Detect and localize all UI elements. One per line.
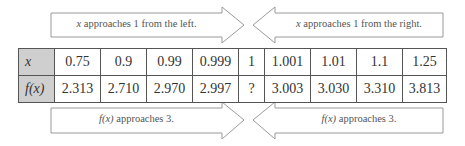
table-cell: 3.813: [403, 76, 447, 103]
table-cell: ?: [239, 76, 265, 103]
table-cell: 1.1: [357, 49, 403, 76]
arrow-label-fx-right: f(x) approaches 3.: [275, 113, 443, 124]
row-header-fx: f(x): [19, 76, 55, 103]
table-cell: 0.999: [193, 49, 239, 76]
table-cell: 2.313: [55, 76, 101, 103]
table-cell: 3.030: [311, 76, 357, 103]
table-row-x: x 0.75 0.9 0.99 0.999 1 1.001 1.01 1.1 1…: [19, 49, 447, 76]
arrow-label-var: f(x): [322, 113, 337, 124]
table-cell: 1.01: [311, 49, 357, 76]
table-cell: 0.99: [147, 49, 193, 76]
table-cell: 2.710: [101, 76, 147, 103]
arrow-label-text: approaches 1 from the left.: [81, 18, 196, 29]
arrow-label-text: approaches 1 from the right.: [301, 18, 422, 29]
row-header-x: x: [19, 49, 55, 76]
arrow-label-x-from-right: x approaches 1 from the right.: [275, 18, 443, 29]
arrow-label-text: approaches 3.: [114, 113, 174, 124]
table-cell: 2.970: [147, 76, 193, 103]
table-cell: 2.997: [193, 76, 239, 103]
table-cell: 0.75: [55, 49, 101, 76]
table-cell: 3.310: [357, 76, 403, 103]
arrow-label-fx-left: f(x) approaches 3.: [51, 113, 222, 124]
values-table: x 0.75 0.9 0.99 0.999 1 1.001 1.01 1.1 1…: [18, 48, 447, 103]
arrow-label-x-from-left: x approaches 1 from the left.: [51, 18, 222, 29]
table-row-fx: f(x) 2.313 2.710 2.970 2.997 ? 3.003 3.0…: [19, 76, 447, 103]
table-cell: 1.25: [403, 49, 447, 76]
arrow-label-var: f(x): [99, 113, 114, 124]
table-cell: 3.003: [265, 76, 311, 103]
table-cell: 1: [239, 49, 265, 76]
table-cell: 0.9: [101, 49, 147, 76]
arrow-label-text: approaches 3.: [336, 113, 396, 124]
table-cell: 1.001: [265, 49, 311, 76]
